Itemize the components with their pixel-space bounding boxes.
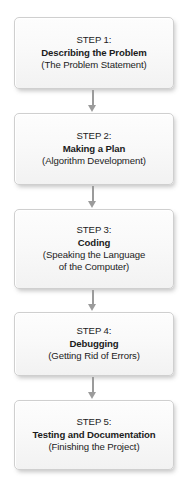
step-2-note: (Algorithm Development) bbox=[42, 155, 146, 167]
connector-step-4-to-step-5 bbox=[86, 377, 100, 399]
arrow-shaft-icon bbox=[92, 90, 94, 106]
step-2-title: Making a Plan bbox=[63, 143, 126, 155]
step-2-label: STEP 2: bbox=[77, 130, 112, 142]
down-arrow-icon bbox=[88, 304, 96, 311]
down-arrow-icon bbox=[88, 201, 96, 208]
flowchart-node-step-3[interactable]: STEP 3: Coding (Speaking the Language of… bbox=[14, 209, 174, 289]
step-3-note-continued: of the Computer) bbox=[59, 261, 129, 273]
step-4-label: STEP 4: bbox=[77, 325, 112, 337]
connector-step-2-to-step-3 bbox=[86, 186, 100, 208]
flowchart-node-step-5[interactable]: STEP 5: Testing and Documentation (Finis… bbox=[14, 400, 174, 470]
step-1-note: (The Problem Statement) bbox=[41, 59, 146, 71]
step-4-note: (Getting Rid of Errors) bbox=[48, 350, 140, 362]
flowchart-node-step-2[interactable]: STEP 2: Making a Plan (Algorithm Develop… bbox=[14, 113, 174, 185]
arrow-shaft-icon bbox=[92, 186, 94, 202]
arrow-shaft-icon bbox=[92, 290, 94, 305]
step-3-label: STEP 3: bbox=[77, 224, 112, 236]
step-3-note: (Speaking the Language bbox=[43, 249, 145, 261]
step-3-title: Coding bbox=[78, 237, 110, 249]
step-5-title: Testing and Documentation bbox=[32, 429, 155, 441]
step-5-note: (Finishing the Project) bbox=[48, 441, 139, 453]
connector-step-1-to-step-2 bbox=[86, 90, 100, 112]
program-development-flowchart: STEP 1: Describing the Problem (The Prob… bbox=[0, 0, 186, 480]
step-1-label: STEP 1: bbox=[77, 34, 112, 46]
flowchart-node-step-1[interactable]: STEP 1: Describing the Problem (The Prob… bbox=[14, 17, 174, 89]
step-5-label: STEP 5: bbox=[77, 416, 112, 428]
down-arrow-icon bbox=[88, 105, 96, 112]
step-1-title: Describing the Problem bbox=[41, 47, 147, 59]
step-4-title: Debugging bbox=[69, 338, 118, 350]
down-arrow-icon bbox=[88, 392, 96, 399]
arrow-shaft-icon bbox=[92, 377, 94, 393]
connector-step-3-to-step-4 bbox=[86, 290, 100, 311]
flowchart-node-step-4[interactable]: STEP 4: Debugging (Getting Rid of Errors… bbox=[14, 312, 174, 376]
